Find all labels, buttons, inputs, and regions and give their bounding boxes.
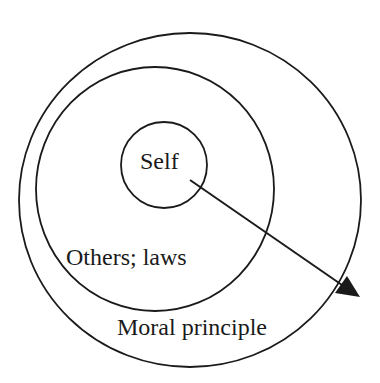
label-self: Self — [140, 148, 179, 174]
nested-circles-diagram: Self Others; laws Moral principle — [0, 0, 380, 383]
middle-circle-others-laws — [36, 67, 274, 311]
arrow-line — [190, 180, 342, 285]
label-moral-principle: Moral principle — [117, 314, 267, 340]
label-others-laws: Others; laws — [66, 244, 187, 270]
arrowhead-icon — [335, 276, 360, 297]
